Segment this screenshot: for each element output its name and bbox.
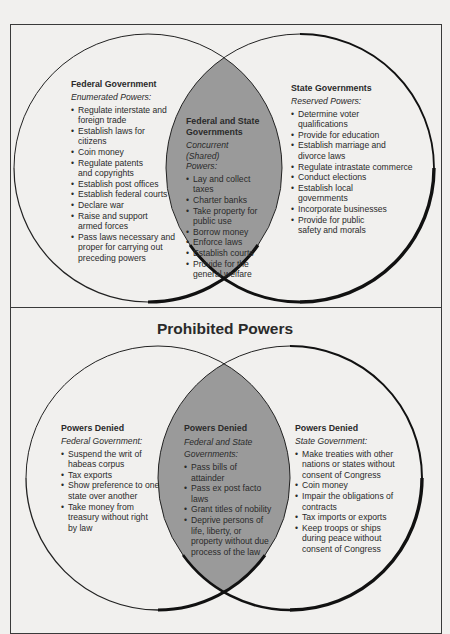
list-item: Take property for public use xyxy=(186,206,267,227)
powers-list: Make treaties with other nations or stat… xyxy=(295,449,407,555)
list-item: Regulate interstate and foreign trade xyxy=(71,105,183,126)
list-item: Establish marriage and divorce laws xyxy=(291,140,406,161)
subheading: Federal and State Governments: xyxy=(184,436,254,460)
federal-enumerated-powers: Federal Government Enumerated Powers: Re… xyxy=(71,79,183,264)
heading: Powers Denied xyxy=(184,423,272,434)
list-item: Show preference to one state over anothe… xyxy=(61,480,172,501)
subheading: State Government: xyxy=(295,436,407,447)
powers-list: Regulate interstate and foreign trade Es… xyxy=(71,105,183,264)
prohibited-powers-title: Prohibited Powers xyxy=(0,320,450,338)
list-item: Incorporate businesses xyxy=(291,204,415,215)
list-item: Enforce laws xyxy=(186,237,266,248)
list-item: Pass ex post facto laws xyxy=(184,483,272,504)
list-item: Suspend the writ of habeas corpus xyxy=(61,449,158,470)
heading: State Governments xyxy=(291,83,415,94)
powers-list: Suspend the writ of habeas corpus Tax ex… xyxy=(61,449,173,534)
list-item: Coin money xyxy=(71,147,183,158)
list-item: Pass laws necessary and proper for carry… xyxy=(71,232,186,264)
list-item: Establish federal courts xyxy=(71,189,183,200)
subheading: Federal Government: xyxy=(61,436,173,447)
state-reserved-powers: State Governments Reserved Powers: Deter… xyxy=(291,83,415,236)
list-item: Declare war xyxy=(71,200,183,211)
list-item: Tax imports or exports xyxy=(295,512,407,523)
list-item: Lay and collect taxes xyxy=(186,174,266,195)
list-item: Provide for education xyxy=(291,130,415,141)
list-item: Raise and support armed forces xyxy=(71,211,163,232)
list-item: Establish local governments xyxy=(291,183,368,204)
list-item: Tax exports xyxy=(61,470,173,481)
concurrent-powers: Federal and State Governments Concurrent… xyxy=(186,116,266,280)
subheading: Enumerated Powers: xyxy=(71,92,183,103)
list-item: Borrow money xyxy=(186,227,266,238)
list-item: Coin money xyxy=(295,480,407,491)
list-item: Provide for the general welfare xyxy=(186,259,263,280)
heading: Powers Denied xyxy=(295,423,407,434)
list-item: Regulate patents and copyrights xyxy=(71,158,158,179)
list-item: Pass bills of attainder xyxy=(184,462,272,483)
list-item: Establish post offices xyxy=(71,179,183,190)
heading: Federal and State Governments xyxy=(186,116,266,138)
list-item: Make treaties with other nations or stat… xyxy=(295,449,410,481)
list-item: Determine voter qualifications xyxy=(291,109,373,130)
list-item: Establish laws for citizens xyxy=(71,126,150,147)
heading: Powers Denied xyxy=(61,423,173,434)
subheading: Reserved Powers: xyxy=(291,96,415,107)
list-item: Deprive persons of life, liberty, or pro… xyxy=(184,515,275,557)
list-item: Conduct elections xyxy=(291,172,415,183)
powers-list: Determine voter qualifications Provide f… xyxy=(291,109,415,236)
heading: Federal Government xyxy=(71,79,183,90)
list-item: Charter banks xyxy=(186,195,266,206)
powers-list: Lay and collect taxes Charter banks Take… xyxy=(186,174,266,280)
state-denied-powers: Powers Denied State Government: Make tre… xyxy=(295,423,407,555)
list-item: Provide for public safety and morals xyxy=(291,215,382,236)
list-item: Regulate intrastate commerce xyxy=(291,162,415,173)
subheading: Concurrent (Shared) Powers: xyxy=(186,140,252,172)
shared-denied-powers: Powers Denied Federal and State Governme… xyxy=(184,423,272,557)
powers-list: Pass bills of attainder Pass ex post fac… xyxy=(184,462,272,557)
list-item: Keep troops or ships during peace withou… xyxy=(295,523,394,555)
list-item: Grant titles of nobility xyxy=(184,504,272,515)
federal-denied-powers: Powers Denied Federal Government: Suspen… xyxy=(61,423,173,533)
list-item: Take money from treasury without right b… xyxy=(61,502,156,534)
list-item: Impair the obligations of contracts xyxy=(295,491,394,512)
list-item: Establish courts xyxy=(186,248,266,259)
